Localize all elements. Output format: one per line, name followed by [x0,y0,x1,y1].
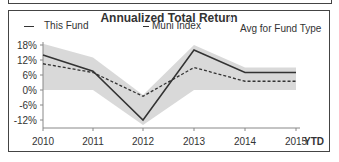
y-tick-label: -6% [19,100,37,111]
y-tick-label: 6% [23,70,38,81]
x-tick-label: 2010 [32,136,55,147]
y-tick-label: -12% [14,115,37,126]
ytd-label: YTD [304,136,324,147]
y-tick-label: 0% [23,85,38,96]
y-tick-label: 18% [17,40,37,51]
x-tick-label: 2012 [132,136,155,147]
x-tick-label: 2013 [183,136,206,147]
plot-area: 18%12%6%0%-6%-12%20102011201220132014201… [0,0,339,162]
y-tick-label: 12% [17,55,37,66]
x-tick-label: 2011 [82,136,104,147]
x-tick-label: 2014 [234,136,257,147]
